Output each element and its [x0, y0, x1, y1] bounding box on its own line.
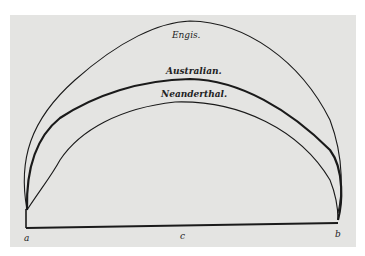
label-engis: Engis. — [171, 30, 201, 40]
label-neanderthal: Neanderthal. — [160, 89, 227, 99]
point-c-label: c — [180, 231, 185, 241]
baseline-ab — [26, 223, 338, 228]
neanderthal-curve — [27, 102, 338, 220]
label-australian: Australian. — [165, 66, 222, 76]
engis-curve — [24, 21, 341, 213]
skull-profile-diagram: Engis. Australian. Neanderthal. a c b — [0, 0, 365, 256]
point-b-label: b — [335, 229, 341, 239]
point-a-label: a — [24, 233, 29, 243]
australian-curve — [27, 79, 341, 220]
